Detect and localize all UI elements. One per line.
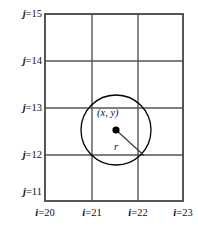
center-point-dot [112,126,119,133]
j-eq-15: =15 [26,8,42,19]
i-axis-label-22: i=22 [118,207,158,218]
j-axis-label-13: j=13 [4,102,42,113]
i-eq-23: =23 [176,207,192,218]
radius-label: r [114,141,118,152]
j-eq-13: =13 [26,102,42,113]
j-axis-label-14: j=14 [4,55,42,66]
j-axis-label-12: j=12 [4,149,42,160]
j-eq-11: =11 [26,186,42,197]
i-axis-label-20: i=20 [25,207,65,218]
i-axis-label-23: i=23 [163,207,198,218]
i-eq-21: =21 [85,207,101,218]
j-axis-label-11: j=11 [4,186,42,197]
center-point-label: (x, y) [97,107,119,118]
j-axis-label-15: j=15 [4,8,42,19]
i-eq-22: =22 [131,207,147,218]
j-eq-12: =12 [26,149,42,160]
j-eq-14: =14 [26,55,42,66]
radius-line [116,130,144,156]
grid-circle-figure: j=15 j=14 j=13 j=12 j=11 i=20 i=21 i=22 … [0,0,198,230]
i-axis-label-21: i=21 [72,207,112,218]
i-eq-20: =20 [38,207,54,218]
